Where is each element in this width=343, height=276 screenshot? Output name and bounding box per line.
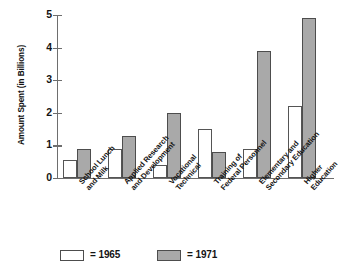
y-tick-label: 1 bbox=[46, 138, 52, 151]
legend-label-1965: = 1965 bbox=[90, 249, 120, 261]
bar-chart: Amount Spent (in Billions) 012345 School… bbox=[0, 0, 343, 276]
bar-1965-1 bbox=[63, 160, 77, 178]
legend-label-1971: = 1971 bbox=[187, 249, 217, 261]
chart-legend: = 1965 = 1971 bbox=[60, 248, 290, 266]
y-tick-label: 0 bbox=[46, 171, 52, 184]
x-axis-category-labels: School Lunchand MilkApplied Researchand … bbox=[57, 180, 334, 246]
legend-item-1971: = 1971 bbox=[157, 248, 217, 262]
legend-swatch-1971 bbox=[157, 250, 181, 261]
bar-1971-5 bbox=[257, 51, 271, 178]
legend-item-1965: = 1965 bbox=[60, 248, 120, 262]
y-tick-label: 3 bbox=[46, 73, 52, 86]
legend-swatch-1965 bbox=[60, 250, 84, 261]
y-tick-label: 5 bbox=[46, 8, 52, 21]
y-axis-title-text: Amount Spent (in Billions) bbox=[17, 44, 26, 144]
y-tick-label: 4 bbox=[46, 41, 52, 54]
y-axis-title: Amount Spent (in Billions) bbox=[14, 32, 28, 157]
y-tick-label: 2 bbox=[46, 106, 52, 119]
